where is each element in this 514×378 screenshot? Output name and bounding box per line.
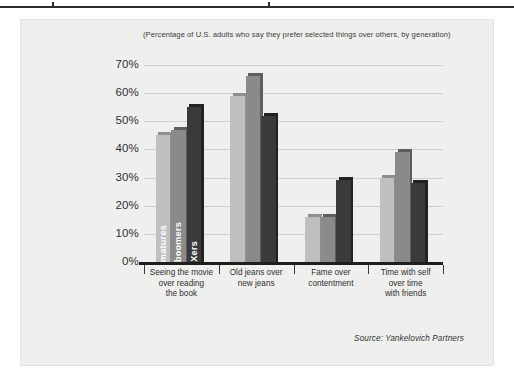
category-label-line: Fame over	[294, 268, 369, 279]
category-label: Time with selfover timewith friends	[368, 268, 443, 300]
bar-face	[321, 217, 336, 262]
category-divider	[368, 265, 369, 274]
bar-matures-1[interactable]	[230, 96, 245, 262]
bar-side-bevel	[351, 180, 354, 262]
bar-face	[395, 152, 410, 262]
category-label-line: Seeing the movie	[144, 268, 219, 279]
category-label: Seeing the movieover readingthe book	[144, 268, 219, 300]
bar-top-bevel	[339, 177, 354, 180]
category-label: Old jeans overnew jeans	[219, 268, 294, 289]
y-axis-tick-label: 0%	[93, 255, 139, 267]
chart-title: (Percentage of U.S. adults who say they …	[143, 29, 463, 40]
bar-face	[305, 217, 320, 262]
bar-face	[230, 96, 245, 262]
bar-boomers-1[interactable]	[246, 76, 261, 262]
chart-source: Source: Yankelovich Partners	[354, 334, 464, 343]
bar-top-bevel	[248, 73, 263, 76]
category-divider	[219, 265, 220, 274]
category-label-line: with friends	[368, 289, 443, 300]
bar-boomers-0[interactable]: boomers	[171, 130, 186, 262]
series-label-xers: Xers	[189, 241, 199, 262]
bar-xers-0[interactable]: Xers	[187, 107, 202, 262]
plot-area: maturesboomersXers	[144, 65, 443, 262]
bar-top-bevel	[413, 180, 428, 183]
bar-face	[246, 76, 261, 262]
bar-xers-3[interactable]	[411, 183, 426, 262]
category-label-line: Old jeans over	[219, 268, 294, 279]
y-axis-tick-label: 40%	[93, 142, 139, 154]
bar-side-bevel	[425, 183, 428, 262]
y-axis-tick-label: 10%	[93, 227, 139, 239]
bar-face	[187, 107, 202, 262]
bar-xers-1[interactable]	[261, 116, 276, 262]
bar-face	[411, 183, 426, 262]
category-label-line: contentment	[294, 279, 369, 290]
bar-top-bevel	[264, 113, 279, 116]
category-label-line: over time	[368, 279, 443, 290]
category-label-line: Time with self	[368, 268, 443, 279]
bar-matures-3[interactable]	[380, 178, 395, 262]
bar-face	[261, 116, 276, 262]
y-axis-tick-label: 60%	[93, 86, 139, 98]
top-rule-tick	[52, 2, 54, 8]
bar-group: maturesboomersXers	[144, 65, 219, 262]
bar-boomers-3[interactable]	[395, 152, 410, 262]
bar-face	[380, 178, 395, 262]
bar-matures-0[interactable]: matures	[156, 135, 171, 262]
bar-top-bevel	[189, 104, 204, 107]
chart-page: (Percentage of U.S. adults who say they …	[0, 0, 514, 378]
bar-boomers-2[interactable]	[321, 217, 336, 262]
chart-card: (Percentage of U.S. adults who say they …	[21, 20, 493, 365]
bar-side-bevel	[276, 116, 279, 262]
y-axis-labels: 0%10%20%30%40%50%60%70%	[87, 65, 139, 262]
y-axis-tick-label: 20%	[93, 199, 139, 211]
bar-xers-2[interactable]	[336, 180, 351, 262]
page-top-rule	[0, 6, 514, 8]
y-axis-tick-label: 50%	[93, 114, 139, 126]
bar-top-bevel	[398, 149, 413, 152]
bar-side-bevel	[201, 107, 204, 262]
y-axis-tick-label: 70%	[93, 58, 139, 70]
series-label-matures: matures	[158, 225, 168, 262]
category-divider	[443, 265, 444, 274]
bar-group	[219, 65, 294, 262]
bar-group	[294, 65, 369, 262]
category-label-line: the book	[144, 289, 219, 300]
bar-group	[368, 65, 443, 262]
category-divider	[144, 265, 145, 274]
series-label-boomers: boomers	[173, 222, 183, 262]
category-label: Fame overcontentment	[294, 268, 369, 289]
category-divider	[294, 265, 295, 274]
y-axis-tick-label: 30%	[93, 171, 139, 183]
bar-face	[336, 180, 351, 262]
category-label-line: new jeans	[219, 279, 294, 290]
x-axis-category-labels: Seeing the movieover readingthe bookOld …	[144, 265, 443, 325]
bar-matures-2[interactable]	[305, 217, 320, 262]
top-rule-tick	[268, 2, 270, 8]
category-label-line: over reading	[144, 279, 219, 290]
